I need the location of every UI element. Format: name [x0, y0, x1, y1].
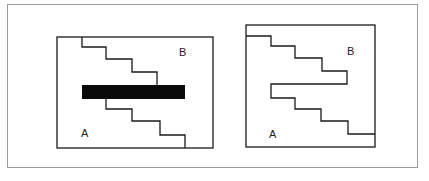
right-label-b: B: [347, 45, 354, 57]
left-diagram: B A: [57, 37, 213, 148]
right-boundary-staircase: [246, 36, 375, 134]
left-barrier-bar: [82, 85, 185, 99]
right-diagram: B A: [246, 25, 375, 147]
right-region-box: [246, 25, 375, 147]
diagram-canvas: B A B A: [0, 0, 429, 181]
left-label-a: A: [81, 127, 89, 139]
left-lower-staircase: [106, 99, 185, 148]
left-label-b: B: [179, 46, 186, 58]
left-upper-staircase: [82, 37, 157, 85]
right-label-a: A: [269, 128, 277, 140]
